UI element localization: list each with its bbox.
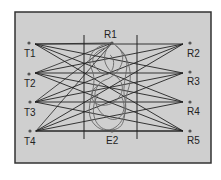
node-dot xyxy=(188,70,191,73)
label-r5: R5 xyxy=(187,136,200,146)
node-dot xyxy=(188,41,191,44)
node-dot xyxy=(27,41,30,44)
node-dot xyxy=(188,100,191,103)
label-r1: R1 xyxy=(104,30,117,40)
label-t4: T4 xyxy=(24,137,36,147)
node-dot xyxy=(188,129,191,132)
node-dot xyxy=(110,129,113,132)
network-diagram xyxy=(0,0,221,180)
label-r3: R3 xyxy=(187,77,200,87)
label-t2: T2 xyxy=(24,79,36,89)
label-r2: R2 xyxy=(187,49,200,59)
node-dot xyxy=(28,100,31,103)
label-e2: E2 xyxy=(106,136,118,146)
label-t3: T3 xyxy=(24,108,36,118)
node-dot xyxy=(27,72,30,75)
node-dot xyxy=(28,129,31,132)
node-dot xyxy=(110,41,113,44)
label-r4: R4 xyxy=(187,107,200,117)
label-t1: T1 xyxy=(24,49,36,59)
